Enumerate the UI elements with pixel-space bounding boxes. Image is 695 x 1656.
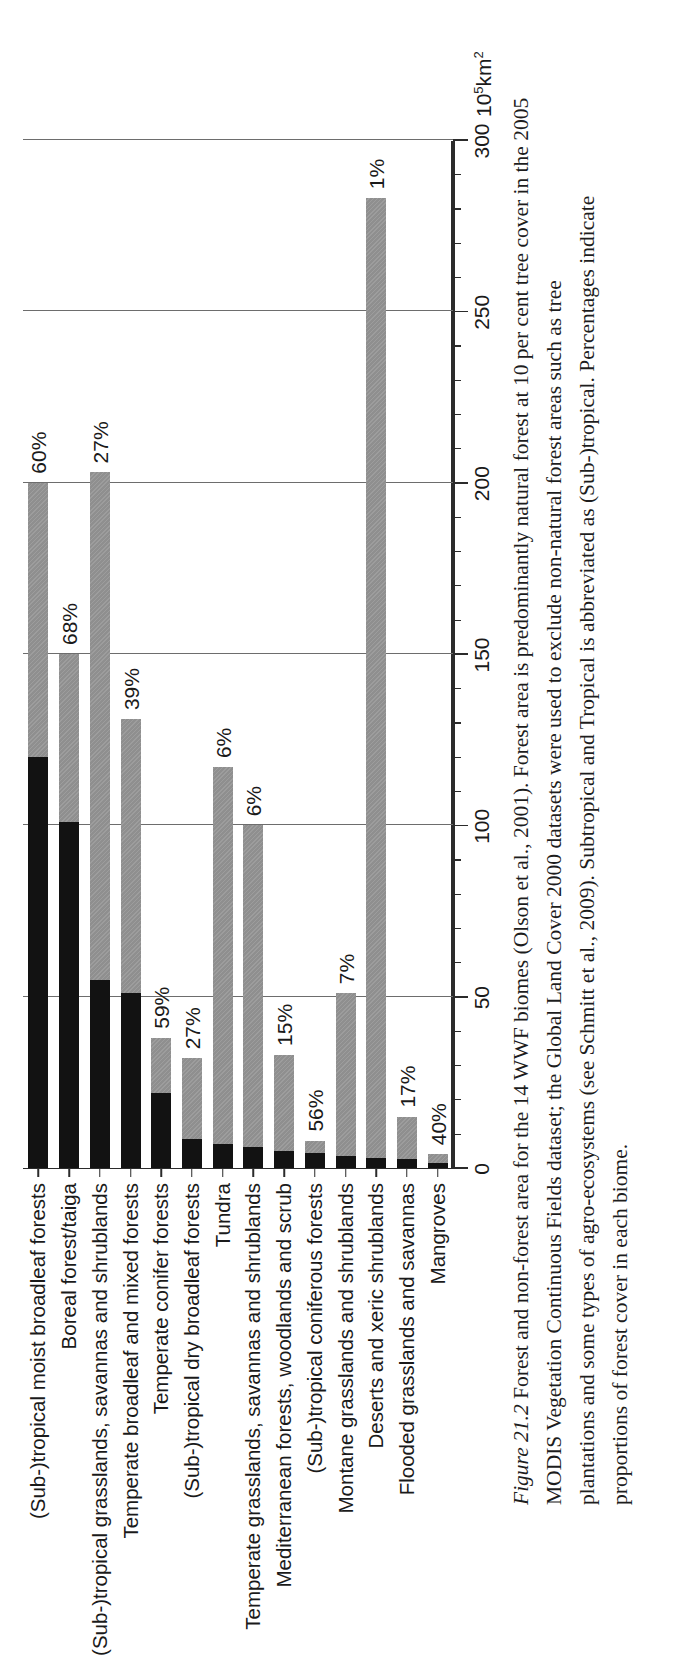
- caption-line-3: plantations and some types of agro-ecosy…: [571, 10, 604, 1505]
- bar-segment-nonforest: [90, 472, 110, 979]
- bar-stack: [397, 1117, 417, 1168]
- category-label: (Sub-)tropical dry broadleaf forests: [182, 1183, 203, 1499]
- axis-tick-label: 100: [471, 809, 492, 844]
- gridline: [23, 824, 453, 825]
- caption-line-4: proportions of forest cover in each biom…: [604, 10, 637, 1505]
- category-label: Temperate broadleaf and mixed forests: [120, 1183, 141, 1539]
- axis-minor-tick: [453, 1134, 461, 1135]
- bar-segment-nonforest: [305, 1141, 325, 1153]
- bar-segment-forest: [397, 1159, 417, 1168]
- value-axis-line: [453, 141, 455, 1169]
- category-label: Mediterranean forests, woodlands and scr…: [274, 1183, 295, 1588]
- category-label: (Sub-)tropical grasslands, savannas and …: [90, 1183, 111, 1656]
- bar-stack: [182, 1058, 202, 1168]
- bar-percent-label: 59%: [151, 987, 172, 1029]
- bar-percent-label: 56%: [304, 1090, 325, 1132]
- caption-line-1: Figure 21.2 Forest and non-forest area f…: [505, 10, 538, 1505]
- axis-minor-tick: [453, 620, 461, 621]
- axis-major-tick: [453, 482, 468, 484]
- axis-minor-tick: [453, 345, 461, 346]
- bar-segment-nonforest: [213, 767, 233, 1144]
- bar-stack: [336, 993, 356, 1168]
- axis-minor-tick: [453, 722, 461, 723]
- bar-segment-forest: [121, 993, 141, 1168]
- bar-segment-nonforest: [243, 825, 263, 1147]
- bar-percent-label: 39%: [120, 668, 141, 710]
- axis-tick-label: 150: [471, 637, 492, 672]
- category-label: (Sub-)tropical moist broadleaf forests: [28, 1183, 49, 1519]
- bar-segment-forest: [336, 1156, 356, 1168]
- bar-percent-label: 6%: [212, 728, 233, 758]
- axis-major-tick: [453, 1168, 468, 1170]
- figure-number: Figure 21.2: [509, 1404, 533, 1505]
- bar-segment-forest: [151, 1093, 171, 1168]
- bar-segment-nonforest: [336, 993, 356, 1155]
- bar-stack: [366, 198, 386, 1168]
- axis-minor-tick: [453, 757, 461, 758]
- bar-segment-forest: [182, 1139, 202, 1168]
- bar-segment-nonforest: [182, 1058, 202, 1139]
- caption-text-2: MODIS Vegetation Continuous Fields datas…: [542, 280, 566, 1505]
- bar-segment-forest: [366, 1158, 386, 1168]
- gridline: [23, 139, 453, 140]
- axis-major-tick: [453, 654, 468, 656]
- bar-percent-label: 68%: [59, 603, 80, 645]
- bar-stack: [243, 825, 263, 1168]
- bar-segment-forest: [213, 1144, 233, 1168]
- caption-text-3: plantations and some types of agro-ecosy…: [575, 196, 599, 1505]
- axis-minor-tick: [453, 517, 461, 518]
- category-label: (Sub-)tropical coniferous forests: [305, 1183, 326, 1474]
- axis-tick-label: 300: [471, 123, 492, 158]
- bar-stack: [274, 1055, 294, 1168]
- bar-percent-label: 1%: [366, 159, 387, 189]
- bar-stack: [305, 1141, 325, 1168]
- figure-caption: Figure 21.2 Forest and non-forest area f…: [505, 10, 637, 1505]
- bar-segment-nonforest: [274, 1055, 294, 1151]
- axis-minor-tick: [453, 551, 461, 552]
- bar-stack: [59, 654, 79, 1168]
- axis-minor-tick: [453, 688, 461, 689]
- gridline: [23, 996, 453, 997]
- bar-segment-nonforest: [366, 198, 386, 1158]
- bar-stack: [213, 767, 233, 1168]
- bar-segment-forest: [243, 1147, 263, 1168]
- bar-percent-label: 27%: [89, 421, 110, 463]
- axis-minor-tick: [453, 791, 461, 792]
- bar-segment-nonforest: [28, 483, 48, 757]
- rotated-chart-stage: (Sub-)tropical moist broadleaf forestsBo…: [9, 49, 585, 1469]
- bar-segment-forest: [90, 980, 110, 1168]
- bar-stack: [28, 483, 48, 1168]
- axis-major-tick: [453, 311, 468, 313]
- bar-stack: [151, 1038, 171, 1168]
- axis-minor-tick: [453, 380, 461, 381]
- axis-minor-tick: [453, 859, 461, 860]
- gridline: [23, 310, 453, 311]
- axis-tick-label: 0: [471, 1163, 492, 1175]
- chart-area: (Sub-)tropical moist broadleaf forestsBo…: [9, 49, 585, 1469]
- bar-percent-label: 15%: [274, 1004, 295, 1046]
- category-label: Temperate conifer forests: [151, 1183, 172, 1414]
- bar-segment-forest: [59, 822, 79, 1168]
- bar-segment-forest: [305, 1153, 325, 1168]
- axis-tick-label: 200: [471, 466, 492, 501]
- gridline: [23, 653, 453, 654]
- axis-minor-tick: [453, 414, 461, 415]
- axis-minor-tick: [453, 894, 461, 895]
- bar-stack: [90, 472, 110, 1168]
- bar-segment-forest: [428, 1163, 448, 1168]
- bar-segment-nonforest: [121, 719, 141, 993]
- bar-segment-forest: [28, 757, 48, 1168]
- figure-caption-wrapper: Figure 21.2 Forest and non-forest area f…: [505, 10, 675, 1505]
- bar-segment-nonforest: [428, 1154, 448, 1162]
- axis-minor-tick: [453, 962, 461, 963]
- caption-text-1: Forest and non-forest area for the 14 WW…: [509, 98, 533, 1399]
- axis-unit-label: 105km2: [471, 51, 496, 117]
- axis-major-tick: [453, 825, 468, 827]
- category-label: Tundra: [212, 1183, 233, 1247]
- category-label: Flooded grasslands and savannas: [397, 1183, 418, 1495]
- axis-minor-tick: [453, 448, 461, 449]
- bar-segment-nonforest: [397, 1117, 417, 1160]
- axis-major-tick: [453, 140, 468, 142]
- axis-minor-tick: [453, 1031, 461, 1032]
- axis-minor-tick: [453, 585, 461, 586]
